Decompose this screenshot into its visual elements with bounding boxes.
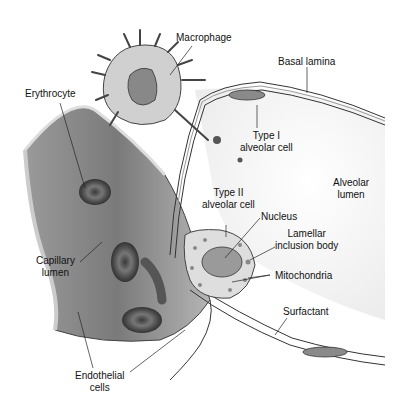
alveolar-diagram: Macrophage Basal lamina Erythrocyte Type… — [0, 0, 405, 408]
label-capillary-line1: Capillary — [36, 255, 75, 267]
bottom-nucleus — [303, 347, 347, 357]
label-mitochondria: Mitochondria — [275, 270, 332, 282]
label-endothelial-line2: cells — [75, 382, 124, 394]
label-type1-line1: Type I — [240, 130, 293, 142]
label-nucleus: Nucleus — [261, 211, 297, 223]
label-lamellar-line2: inclusion body — [275, 240, 338, 252]
capillary — [25, 107, 210, 341]
type2-nucleus — [202, 247, 242, 277]
label-type2-line1: Type II — [202, 187, 255, 199]
type1-nucleus — [229, 90, 265, 100]
label-surfactant: Surfactant — [283, 306, 329, 318]
label-endothelial-line1: Endothelial — [75, 370, 124, 382]
label-lamellar-body: Lamellar inclusion body — [275, 228, 338, 252]
label-type1-cell: Type I alveolar cell — [240, 130, 293, 154]
label-endothelial-cells: Endothelial cells — [75, 370, 124, 394]
label-capillary-line2: lumen — [36, 267, 75, 279]
label-alveolar-lumen: Alveolar lumen — [333, 177, 369, 201]
label-capillary-lumen: Capillary lumen — [36, 255, 75, 279]
label-lamellar-line1: Lamellar — [275, 228, 338, 240]
label-alveolar-lumen-line1: Alveolar — [333, 177, 369, 189]
label-alveolar-lumen-line2: lumen — [333, 189, 369, 201]
label-basal-lamina: Basal lamina — [278, 56, 335, 68]
label-type1-line2: alveolar cell — [240, 142, 293, 154]
label-type2-line2: alveolar cell — [202, 199, 255, 211]
label-macrophage: Macrophage — [176, 32, 232, 44]
label-erythrocyte: Erythrocyte — [25, 88, 76, 100]
macrophage-nucleus — [128, 68, 157, 105]
label-type2-cell: Type II alveolar cell — [202, 187, 255, 211]
